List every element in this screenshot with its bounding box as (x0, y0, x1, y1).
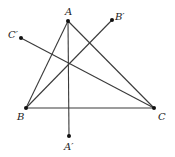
point-c-prime (19, 36, 23, 40)
label-a-prime: A′ (63, 141, 74, 152)
point-b-prime (110, 18, 114, 22)
triangle-diagram: A B C A′ B′ C′ (0, 0, 175, 157)
point-c (152, 106, 156, 110)
segments (21, 20, 154, 136)
label-b: B (16, 111, 24, 122)
segment-c-cprime (21, 38, 154, 108)
segment-a-aprime (68, 21, 69, 136)
segment-ca (68, 21, 154, 108)
segment-ab (26, 21, 68, 108)
labels: A B C A′ B′ C′ (8, 6, 166, 152)
label-c-prime: C′ (8, 29, 19, 40)
point-a (66, 19, 70, 23)
label-a: A (64, 6, 72, 17)
point-b (24, 106, 28, 110)
points (19, 18, 156, 138)
label-c: C (158, 111, 166, 122)
point-a-prime (67, 134, 71, 138)
label-b-prime: B′ (114, 11, 125, 22)
